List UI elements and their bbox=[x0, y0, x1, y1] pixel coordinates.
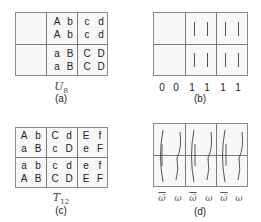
cell: a bbox=[52, 49, 62, 59]
cell: B bbox=[33, 144, 43, 154]
cell: d bbox=[96, 17, 106, 27]
cell: f bbox=[95, 161, 105, 171]
cell: b bbox=[65, 30, 75, 40]
bit-label: 0 bbox=[157, 82, 167, 93]
cell: a bbox=[19, 144, 29, 154]
cell: D bbox=[96, 62, 106, 72]
cell: C bbox=[50, 174, 60, 184]
bit-label: 1 bbox=[187, 82, 197, 93]
bar-mark bbox=[225, 53, 226, 67]
cell: D bbox=[64, 144, 74, 154]
omega-bar-label: ω̄ bbox=[218, 193, 230, 203]
panel-a-caption: (a) bbox=[46, 93, 76, 104]
bar-mark bbox=[194, 22, 195, 36]
cell: d bbox=[64, 161, 74, 171]
cell: C bbox=[82, 49, 92, 59]
cell: c bbox=[50, 161, 60, 171]
cell: C bbox=[50, 131, 60, 141]
cell: c bbox=[82, 17, 92, 27]
panel-d-caption: (d) bbox=[185, 206, 215, 217]
math-label-base: U bbox=[54, 80, 63, 93]
cell: B bbox=[33, 174, 43, 184]
cell: c bbox=[50, 144, 60, 154]
omega-label: ω bbox=[233, 193, 245, 203]
bit-label: 1 bbox=[202, 82, 212, 93]
cell: a bbox=[19, 161, 29, 171]
panel-c-grid: A b C d E f a B c D e F a b c d e f A B … bbox=[15, 127, 108, 188]
bar-mark bbox=[194, 53, 195, 67]
cell: C bbox=[82, 62, 92, 72]
cell: e bbox=[81, 161, 91, 171]
cell: e bbox=[81, 144, 91, 154]
bit-label: 0 bbox=[171, 82, 181, 93]
omega-bar-label: ω̄ bbox=[156, 193, 168, 203]
panel-c-math-label: T12 bbox=[44, 191, 78, 206]
cell: B bbox=[65, 62, 75, 72]
bit-label: 1 bbox=[218, 82, 228, 93]
omega-label: ω bbox=[172, 193, 184, 203]
panel-b-grid bbox=[153, 12, 248, 76]
cell: F bbox=[95, 144, 105, 154]
cell: A bbox=[52, 17, 62, 27]
panel-c-caption: (c) bbox=[46, 205, 76, 216]
cell: b bbox=[33, 131, 43, 141]
cell: D bbox=[96, 49, 106, 59]
panel-b-caption: (b) bbox=[185, 93, 215, 104]
cell: B bbox=[65, 49, 75, 59]
cell: F bbox=[95, 174, 105, 184]
cell: b bbox=[33, 161, 43, 171]
cell: d bbox=[64, 131, 74, 141]
panel-a-grid: A b c d A b c d a B C D a B C D bbox=[15, 12, 108, 76]
cell: E bbox=[81, 174, 91, 184]
grid-divider bbox=[16, 44, 107, 45]
grid-divider bbox=[154, 44, 247, 45]
bar-mark bbox=[207, 22, 208, 36]
cell: f bbox=[95, 131, 105, 141]
bit-label: 1 bbox=[233, 82, 243, 93]
panel-d-grid bbox=[153, 123, 248, 187]
cell: E bbox=[81, 131, 91, 141]
curved-strokes bbox=[154, 124, 249, 188]
grid-divider bbox=[16, 157, 107, 158]
cell: A bbox=[52, 30, 62, 40]
cell: d bbox=[96, 30, 106, 40]
cell: b bbox=[65, 17, 75, 27]
bar-mark bbox=[207, 53, 208, 67]
cell: D bbox=[64, 174, 74, 184]
cell: A bbox=[19, 174, 29, 184]
omega-bar-label: ω̄ bbox=[187, 193, 199, 203]
cell: A bbox=[19, 131, 29, 141]
omega-label: ω bbox=[203, 193, 215, 203]
bar-mark bbox=[238, 22, 239, 36]
cell: c bbox=[82, 30, 92, 40]
bar-mark bbox=[225, 22, 226, 36]
bar-mark bbox=[238, 53, 239, 67]
cell: a bbox=[52, 62, 62, 72]
